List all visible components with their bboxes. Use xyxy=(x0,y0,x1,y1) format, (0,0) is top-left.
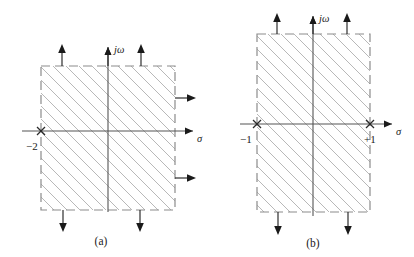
imag-axis-label-a: jω xyxy=(112,44,124,55)
extension-arrow-up-a-1 xyxy=(58,44,66,66)
real-axis-label-a: σ xyxy=(197,133,203,144)
imag-axis-label-b: jω xyxy=(317,13,329,24)
extension-arrow-up-b-3 xyxy=(343,13,351,34)
figure-root: σ jω −2 xyxy=(0,0,414,257)
panel-caption-a: (a) xyxy=(95,235,108,248)
extension-arrow-down-a-2 xyxy=(136,210,144,232)
extension-arrow-up-b-1 xyxy=(273,13,281,34)
extension-arrow-down-b-2 xyxy=(344,212,352,235)
extension-arrow-up-b-2 xyxy=(310,16,317,34)
panel-b: σ jω −1 +1 xyxy=(240,13,402,250)
extension-arrow-down-b-1 xyxy=(274,212,282,235)
extension-arrow-up-a-3 xyxy=(137,44,145,66)
pole-label-b-2: +1 xyxy=(364,133,376,145)
s-plane-roc-figure: σ jω −2 xyxy=(0,0,414,257)
extension-arrow-down-a-1 xyxy=(59,210,67,232)
extension-arrow-right-a-2 xyxy=(175,174,196,182)
extension-arrow-right-a-1 xyxy=(175,94,196,102)
pole-label-b-1: −1 xyxy=(240,133,252,145)
panel-a: σ jω −2 xyxy=(22,44,203,248)
real-axis-label-b: σ xyxy=(396,126,402,137)
pole-label-a-1: −2 xyxy=(26,140,38,152)
panel-caption-b: (b) xyxy=(306,237,320,250)
extension-arrow-up-a-2 xyxy=(105,47,112,66)
